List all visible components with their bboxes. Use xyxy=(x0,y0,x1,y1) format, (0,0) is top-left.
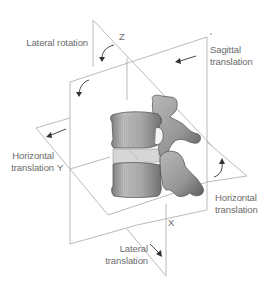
lateral-arrow xyxy=(150,244,159,253)
axis-x-label: X xyxy=(168,218,174,228)
label-horizontal-right-line2: translation xyxy=(215,204,258,216)
axis-z-label: Z xyxy=(119,32,125,42)
label-lateral-rotation: Lateral rotation xyxy=(22,37,88,49)
label-lateral-translation-line1: Lateral xyxy=(96,243,148,255)
horizontal-arrow-left xyxy=(51,129,66,135)
rotation-arrow-right xyxy=(214,163,222,177)
rotation-arrow-top xyxy=(102,45,114,58)
plane-corner-dot xyxy=(210,33,212,35)
label-horizontal-left-line2: translation xyxy=(8,162,54,174)
label-lateral-translation-line2: translation xyxy=(96,255,148,267)
label-sagittal-line2: translation xyxy=(210,56,253,68)
label-sagittal-line1: Sagittal xyxy=(210,44,253,56)
label-horizontal-translation-left: Horizontal translation xyxy=(8,150,54,174)
label-horizontal-translation-right: Horizontal translation xyxy=(215,192,258,216)
label-horizontal-left-line1: Horizontal xyxy=(8,150,54,162)
label-horizontal-right-line1: Horizontal xyxy=(215,192,258,204)
vertebrae-illustration xyxy=(111,95,204,197)
axis-y-label: Y xyxy=(57,163,63,173)
rotation-arrow-frontal xyxy=(79,80,89,93)
label-lateral-translation: Lateral translation xyxy=(96,243,148,267)
sagittal-arrow xyxy=(180,56,196,61)
label-sagittal-translation: Sagittal translation xyxy=(210,44,253,68)
